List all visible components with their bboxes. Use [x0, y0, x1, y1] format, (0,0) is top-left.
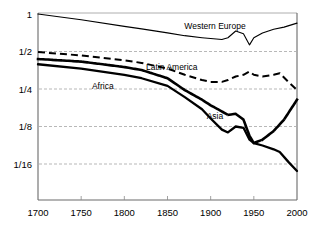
x-tick-label: 1750 — [71, 207, 92, 218]
x-tick-label: 1800 — [114, 207, 135, 218]
x-tick-marks — [81, 196, 254, 200]
data-series-group — [38, 14, 297, 171]
axes — [38, 13, 297, 200]
y-tick-label: 1/2 — [19, 46, 32, 57]
series-label-latin-america: Latin America — [146, 62, 198, 72]
y-tick-labels: 11/21/41/81/16 — [14, 9, 33, 170]
y-tick-label: 1 — [27, 9, 32, 20]
y-tick-label: 1/4 — [19, 84, 32, 95]
x-tick-label: 1900 — [200, 207, 221, 218]
series-line-western-europe — [38, 14, 297, 45]
x-tick-label: 1850 — [157, 207, 178, 218]
series-label-western-europe: Western Europe — [184, 21, 246, 31]
series-annotations: Western EuropeLatin AmericaAsiaAfrica — [92, 21, 246, 121]
x-tick-labels: 1700175018001850190019502000 — [27, 207, 307, 218]
x-tick-label: 2000 — [286, 207, 307, 218]
y-tick-label: 1/16 — [14, 159, 33, 170]
y-tick-label: 1/8 — [19, 121, 32, 132]
line-chart: 11/21/41/81/16 1700175018001850190019502… — [0, 0, 315, 236]
series-line-africa — [38, 64, 297, 171]
chart-container: 11/21/41/81/16 1700175018001850190019502… — [0, 0, 315, 236]
series-label-africa: Africa — [92, 81, 114, 91]
x-tick-label: 1700 — [27, 207, 48, 218]
x-tick-label: 1950 — [243, 207, 264, 218]
series-label-asia: Asia — [207, 111, 224, 121]
